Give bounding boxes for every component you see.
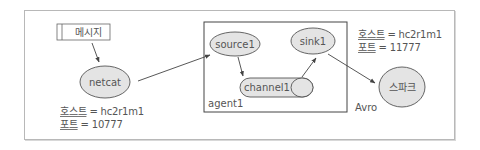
right-host-value: = hc2r1m1 [384, 29, 442, 40]
message-box-label: 메시지 [75, 27, 102, 38]
left-port-line: 포트 = 10777 [60, 119, 123, 131]
message-box: 메시지 [57, 24, 110, 40]
agent-label: agent1 [208, 98, 243, 109]
node-netcat: netcat [80, 66, 130, 98]
avro-label: Avro [355, 102, 377, 113]
edge-sink-spark [328, 54, 375, 83]
netcat-label: netcat [89, 77, 121, 88]
node-spark: 스파크 [379, 67, 425, 107]
edge-channel-sink [302, 58, 316, 77]
source-label: source1 [215, 39, 255, 50]
channel-label: channel1 [244, 82, 290, 93]
edge-message-netcat [92, 43, 99, 62]
right-host-key: 호스트 [358, 29, 384, 40]
left-host-key: 호스트 [60, 106, 86, 117]
left-port-key: 포트 [60, 119, 78, 130]
right-host-line: 호스트 = hc2r1m1 [358, 29, 442, 41]
right-port-key: 포트 [358, 42, 376, 53]
left-host-value: = hc2r1m1 [86, 106, 144, 117]
right-port-value: = 11777 [376, 42, 421, 53]
edge-netcat-source [138, 55, 210, 81]
spark-label: 스파크 [389, 82, 416, 93]
node-sink: sink1 [291, 28, 335, 54]
edge-source-channel [238, 57, 243, 76]
left-host-line: 호스트 = hc2r1m1 [60, 106, 144, 118]
node-channel: channel1 [240, 78, 313, 97]
left-port-value: = 10777 [78, 119, 123, 130]
node-source: source1 [210, 32, 260, 56]
right-port-line: 포트 = 11777 [358, 42, 421, 54]
sink-label: sink1 [300, 36, 326, 47]
